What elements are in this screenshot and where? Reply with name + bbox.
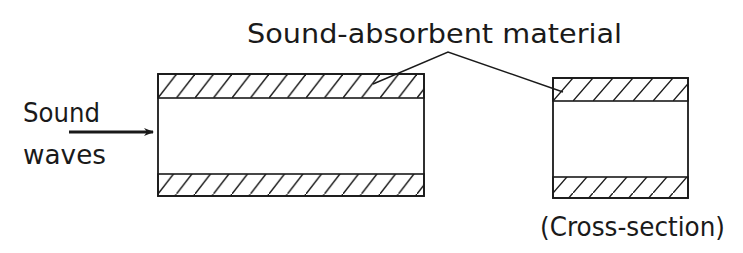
sound-label: Sound bbox=[23, 97, 100, 128]
duct-side-view bbox=[158, 74, 424, 196]
title-label: Sound-absorbent material bbox=[247, 18, 622, 49]
absorbent-layer-bottom bbox=[158, 174, 424, 196]
diagram-canvas: Sound-absorbent material Sound waves (Cr… bbox=[0, 0, 743, 253]
cross-section-caption: (Cross-section) bbox=[540, 211, 725, 242]
absorbent-layer-bottom bbox=[553, 177, 688, 198]
duct-cross-section bbox=[553, 78, 688, 198]
absorbent-layer-top bbox=[158, 74, 424, 98]
waves-label: waves bbox=[23, 139, 106, 170]
absorbent-layer-top bbox=[553, 78, 688, 101]
